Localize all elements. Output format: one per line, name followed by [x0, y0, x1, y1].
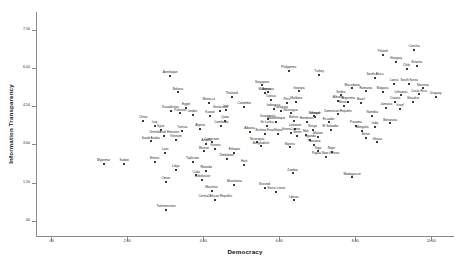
- data-point: [365, 137, 367, 139]
- data-point-label: Kenya: [308, 125, 317, 128]
- data-point: [399, 108, 401, 110]
- data-point-label: Macedonia: [344, 83, 359, 86]
- data-point-label: Slovenia: [417, 83, 429, 86]
- data-point-label: Haiti: [241, 160, 247, 163]
- data-point: [154, 161, 156, 163]
- data-point: [249, 131, 251, 133]
- data-point: [275, 121, 277, 123]
- data-point: [286, 102, 288, 104]
- data-point-label: Myanmar: [97, 159, 110, 162]
- data-point: [280, 110, 282, 112]
- data-point-label: Honduras: [300, 117, 314, 120]
- data-point: [277, 133, 279, 135]
- data-point-label: Venezuela: [213, 106, 228, 109]
- x-tick-label: 2.00: [124, 240, 131, 244]
- data-point: [199, 128, 201, 130]
- data-point: [374, 126, 376, 128]
- data-point: [330, 129, 332, 131]
- data-point: [243, 106, 245, 108]
- data-point: [318, 74, 320, 76]
- data-point: [150, 140, 152, 142]
- data-point: [233, 184, 235, 186]
- data-point: [395, 61, 397, 63]
- data-point: [164, 152, 166, 154]
- data-point-label: Morocco: [203, 98, 215, 101]
- data-point: [177, 91, 179, 93]
- y-tick-label: 3.00: [23, 143, 30, 147]
- x-tick-label: 8.00: [352, 240, 359, 244]
- data-point-label: Tunisia: [266, 95, 276, 98]
- data-point: [270, 99, 272, 101]
- data-point-label: Ethiopia: [229, 148, 240, 151]
- data-point-label: Kuwait: [205, 111, 214, 114]
- data-point-label: Moldova: [290, 97, 302, 100]
- data-point: [337, 113, 339, 115]
- data-point: [325, 156, 327, 158]
- data-point-label: Serbia: [336, 91, 345, 94]
- data-point: [382, 54, 384, 56]
- data-point: [385, 107, 387, 109]
- data-point-label: Namibia: [367, 111, 379, 114]
- data-point: [179, 112, 181, 114]
- data-point-label: Colombia: [238, 102, 251, 105]
- data-point-label: Niger: [328, 147, 336, 150]
- data-point: [412, 101, 414, 103]
- data-point-label: Jamaica: [381, 103, 393, 106]
- data-point-label: Brazil: [357, 98, 365, 101]
- y-tick-label: 1.50: [23, 181, 30, 185]
- data-point: [317, 136, 319, 138]
- data-point: [231, 96, 233, 98]
- data-point: [266, 125, 268, 127]
- data-point-label: Lithuania: [394, 91, 407, 94]
- data-point-label: Tunisia: [177, 126, 187, 129]
- data-point-label: Sri Lanka: [260, 121, 273, 124]
- data-point-label: Cameroon: [204, 137, 219, 140]
- data-point-label: Tajikistan: [186, 157, 199, 160]
- data-point-label: Ghana: [373, 137, 382, 140]
- scatter-chart: .001.503.004.506.007.50 .002.004.006.008…: [0, 0, 470, 264]
- data-point: [393, 83, 395, 85]
- data-point-label: Central African Republic: [199, 195, 233, 198]
- data-point: [317, 150, 319, 152]
- data-point: [220, 125, 222, 127]
- data-point-label: Nepal: [274, 129, 282, 132]
- data-point: [201, 179, 203, 181]
- data-point: [290, 132, 292, 134]
- x-axis-title: Democracy: [227, 248, 262, 255]
- data-point: [103, 163, 105, 165]
- x-tick-label: 4.00: [200, 240, 207, 244]
- data-point-label: Belarus: [173, 87, 184, 90]
- x-tick-label: 6.00: [276, 240, 283, 244]
- data-point: [224, 120, 226, 122]
- data-point: [413, 49, 415, 51]
- y-axis-title: Information Transparency: [7, 84, 14, 164]
- data-point-label: Pakistan: [174, 108, 186, 111]
- data-point-label: Senegal: [308, 111, 320, 114]
- data-point: [169, 75, 171, 77]
- data-point: [175, 139, 177, 141]
- data-point-label: Benin: [293, 131, 301, 134]
- data-point: [226, 158, 228, 160]
- data-point-label: Albania: [244, 127, 254, 130]
- data-point: [175, 169, 177, 171]
- data-point-label: Sierra Leone: [267, 187, 285, 190]
- data-point-label: Chile: [403, 64, 410, 67]
- data-point: [435, 96, 437, 98]
- data-point-label: Saudi Arabia: [142, 136, 160, 139]
- data-point: [256, 141, 258, 143]
- data-point-label: Mauritania: [227, 180, 242, 183]
- y-tick-label: 4.50: [23, 104, 30, 108]
- data-point-label: Rwanda: [200, 166, 212, 169]
- data-point-label: United Arab Emirates: [150, 131, 180, 134]
- data-point-label: Cambodia: [214, 121, 228, 124]
- data-point-label: Singapore: [255, 80, 269, 83]
- data-point-label: Nigeria: [285, 142, 295, 145]
- data-point-label: Egypt: [182, 103, 190, 106]
- x-tick-label: 10.00: [427, 240, 436, 244]
- data-point-label: Algeria: [195, 124, 205, 127]
- data-point-label: Bhutan: [199, 147, 209, 150]
- data-point: [170, 110, 172, 112]
- data-point: [296, 135, 298, 137]
- data-point-label: El Salvador: [322, 125, 338, 128]
- data-point-label: Hungary: [390, 57, 402, 60]
